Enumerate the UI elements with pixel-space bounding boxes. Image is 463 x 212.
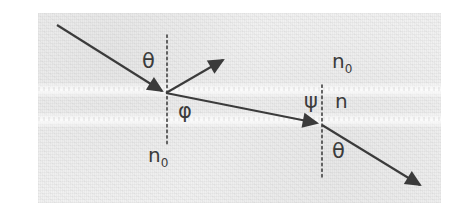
label-n-slab-index: n: [335, 91, 348, 111]
label-n0-upper-medium: n0: [332, 51, 352, 75]
figure-canvas: θ φ ψ n n0 n0 θ: [0, 0, 463, 212]
label-n0-lower-subscript: 0: [161, 156, 169, 170]
label-theta-exit: θ: [332, 141, 345, 162]
label-n0-upper-subscript: 0: [345, 62, 353, 76]
label-n0-lower-base: n: [148, 143, 161, 167]
label-n0-upper-base: n: [332, 49, 345, 73]
scanned-figure-plate: θ φ ψ n n0 n0 θ: [38, 13, 441, 203]
label-phi-refraction: φ: [178, 101, 192, 122]
label-theta-incidence: θ: [142, 51, 155, 72]
reflected-ray-line: [166, 60, 223, 93]
label-n0-lower-medium: n0: [148, 145, 168, 169]
label-psi-angle: ψ: [304, 91, 318, 112]
ray-diagram-lines: [38, 13, 441, 203]
